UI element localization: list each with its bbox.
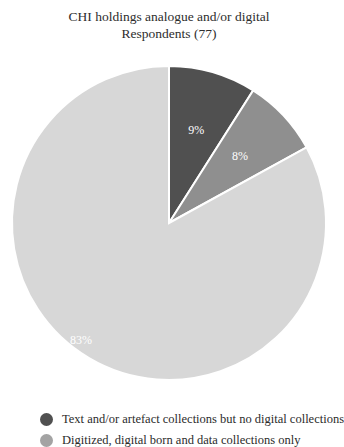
legend: Text and/or artefact collections but no … [40,409,344,447]
legend-label: Digitized, digital born and data collect… [62,433,300,447]
legend-swatch [40,434,53,447]
slice-label: 9% [188,123,204,137]
slice-label: 8% [232,149,248,163]
legend-swatch [40,413,53,426]
slice-label: 83% [70,333,92,347]
legend-label: Text and/or artefact collections but no … [62,412,344,427]
legend-item: Digitized, digital born and data collect… [40,430,344,447]
legend-item: Text and/or artefact collections but no … [40,409,344,430]
